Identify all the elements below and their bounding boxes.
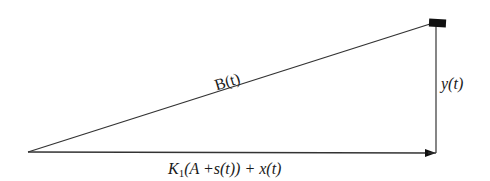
mass-block xyxy=(429,19,446,28)
vertical-label: y(t) xyxy=(439,75,463,93)
hypotenuse-label: B(t) xyxy=(212,69,242,94)
triangle-diagram: B(t) y(t) K1(A +s(t)) + x(t) xyxy=(0,0,490,181)
base-label-rest: (A +s(t)) + x(t) xyxy=(184,160,281,178)
base-label: K1(A +s(t)) + x(t) xyxy=(167,160,281,179)
base-arrow-line xyxy=(28,152,428,153)
